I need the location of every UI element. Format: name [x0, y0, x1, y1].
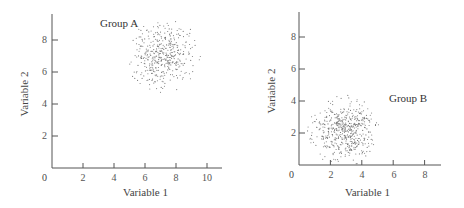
y-tick-label: 4: [282, 95, 296, 106]
y-axis-label: Variable 2: [265, 69, 277, 114]
x-axis-label: Variable 1: [123, 186, 168, 198]
x-tick-label: 8: [423, 169, 428, 180]
y-tick-label: 4: [33, 98, 47, 109]
x-origin-label: 0: [289, 169, 294, 180]
y-tick-label: 6: [282, 63, 296, 74]
x-tick-label: 6: [143, 172, 148, 183]
group-b-label: Group B: [389, 92, 427, 104]
x-origin-label: 0: [42, 172, 47, 183]
x-axis-label: Variable 1: [345, 186, 390, 198]
x-tick-label: 4: [112, 172, 117, 183]
x-tick-label: 2: [329, 169, 334, 180]
y-axis-label: Variable 2: [18, 72, 30, 117]
y-tick-label: 6: [33, 66, 47, 77]
group-a-label: Group A: [100, 17, 138, 29]
x-tick-label: 6: [392, 169, 397, 180]
y-tick-label: 2: [282, 127, 296, 138]
x-tick-label: 10: [202, 172, 212, 183]
scatter-panel-group-a: Group A 0 2 4 6 8 10 2 4 6 8 Variable 1 …: [0, 0, 232, 208]
x-tick-label: 2: [81, 172, 86, 183]
y-tick-label: 8: [282, 31, 296, 42]
y-tick-label: 2: [33, 130, 47, 141]
x-tick-label: 4: [360, 169, 365, 180]
x-tick-label: 8: [174, 172, 179, 183]
y-tick-label: 8: [33, 34, 47, 45]
scatter-panel-group-b: Group B 0 2 4 6 8 2 4 6 8 Variable 1 Var…: [232, 0, 464, 208]
